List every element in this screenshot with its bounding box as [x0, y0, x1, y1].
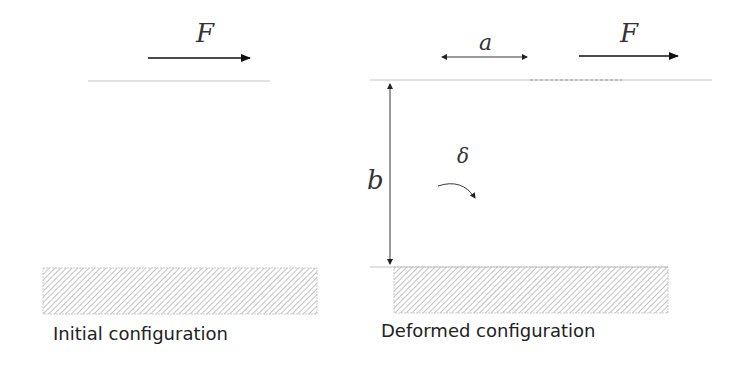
ground-block-deformed [394, 267, 668, 313]
angle-label: δ [457, 144, 469, 168]
height-label: b [367, 165, 384, 195]
ground-block-initial [43, 268, 317, 314]
force-label-deformed: F [620, 18, 638, 48]
caption-deformed: Deformed configuration [381, 320, 596, 341]
caption-initial: Initial configuration [53, 323, 228, 344]
displacement-label: a [479, 30, 492, 55]
deformed-panel [370, 56, 712, 313]
initial-panel [43, 58, 317, 314]
shear-angle-arc [438, 184, 475, 198]
diagram-canvas: F Initial configuration a F b δ Deformed… [0, 0, 740, 367]
force-label-initial: F [196, 18, 214, 48]
